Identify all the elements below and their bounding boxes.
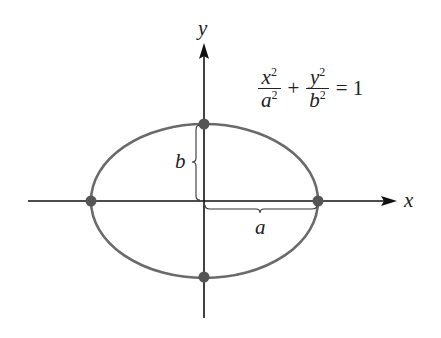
fraction-x-over-a: x2 a2 (258, 66, 281, 111)
eq-num2: y (310, 65, 319, 89)
vertex-top (199, 119, 210, 130)
eq-den2-exp: 2 (320, 88, 326, 102)
y-axis-label: y (198, 18, 207, 39)
eq-den2: b (309, 88, 320, 112)
eq-num1: x (262, 65, 271, 89)
semi-axis-label-b: b (175, 151, 186, 172)
eq-num2-exp: 2 (319, 65, 325, 79)
vertex-bottom (199, 272, 210, 283)
brace-a (205, 205, 317, 213)
fraction-y-over-b: y2 b2 (306, 66, 329, 111)
eq-rhs: 1 (353, 76, 364, 101)
x-axis-label: x (404, 190, 413, 211)
eq-den1: a (261, 88, 272, 112)
vertex-right (313, 196, 324, 207)
ellipse-equation: x2 a2 + y2 b2 = 1 (256, 66, 363, 111)
diagram-svg (0, 0, 441, 338)
brace-b (192, 125, 200, 200)
semi-axis-label-a: a (255, 217, 266, 238)
ellipse-diagram: x y b a x2 a2 + y2 b2 = 1 (0, 0, 441, 338)
eq-num1-exp: 2 (271, 65, 277, 79)
eq-equals: = (336, 76, 348, 101)
eq-den1-exp: 2 (272, 88, 278, 102)
eq-plus: + (288, 76, 300, 101)
vertex-left (86, 196, 97, 207)
